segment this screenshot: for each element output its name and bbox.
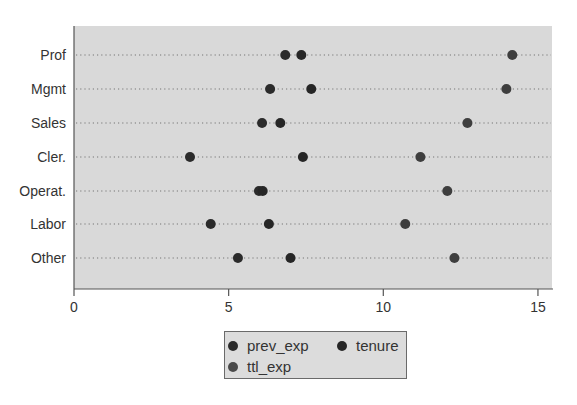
data-point-ttl-exp: [442, 186, 452, 196]
data-point-ttl-exp: [400, 219, 410, 229]
category-label: Sales: [31, 115, 66, 131]
data-point-tenure: [296, 50, 306, 60]
legend-label: ttl_exp: [247, 358, 291, 375]
x-axis-ticks: 051015: [70, 289, 546, 315]
data-point-ttl-exp: [507, 50, 517, 60]
category-label: Mgmt: [31, 81, 66, 97]
legend-marker-icon: [228, 362, 238, 372]
data-point-ttl-exp: [415, 152, 425, 162]
legend-label: prev_exp: [247, 337, 309, 354]
data-point-prev-exp: [257, 118, 267, 128]
category-label: Operat.: [19, 183, 66, 199]
category-label: Other: [31, 250, 66, 266]
legend-item-ttl-exp: ttl_exp: [228, 358, 291, 375]
y-axis-labels: ProfMgmtSalesCler.Operat.LaborOther: [19, 47, 66, 266]
x-tick-label: 5: [225, 299, 233, 315]
x-tick-label: 15: [530, 299, 546, 315]
legend: prev_exp tenure ttl_exp: [224, 331, 407, 379]
data-point-tenure: [275, 118, 285, 128]
legend-marker-icon: [337, 341, 347, 351]
x-tick-label: 10: [376, 299, 392, 315]
category-label: Prof: [40, 47, 66, 63]
legend-item-tenure: tenure: [337, 337, 399, 354]
legend-label: tenure: [356, 337, 399, 354]
category-label: Labor: [30, 216, 66, 232]
data-point-tenure: [264, 219, 274, 229]
data-point-tenure: [298, 152, 308, 162]
legend-item-prev-exp: prev_exp: [228, 337, 309, 354]
data-point-tenure: [286, 253, 296, 263]
data-point-ttl-exp: [462, 118, 472, 128]
data-point-ttl-exp: [449, 253, 459, 263]
data-point-prev-exp: [185, 152, 195, 162]
category-label: Cler.: [37, 149, 66, 165]
data-point-tenure: [306, 84, 316, 94]
data-point-prev-exp: [280, 50, 290, 60]
data-point-tenure: [258, 186, 268, 196]
x-tick-label: 0: [70, 299, 78, 315]
data-point-prev-exp: [206, 219, 216, 229]
data-point-prev-exp: [233, 253, 243, 263]
data-point-ttl-exp: [501, 84, 511, 94]
legend-marker-icon: [228, 341, 238, 351]
data-point-prev-exp: [265, 84, 275, 94]
